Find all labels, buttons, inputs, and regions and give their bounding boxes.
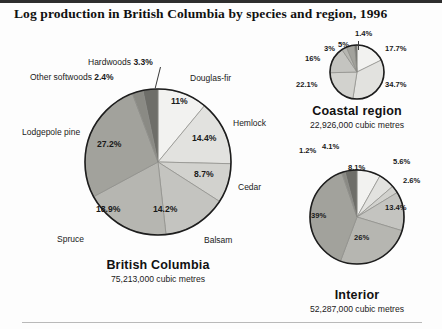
caption-coastal-region: Coastal region 22,926,000 cubic metres (277, 104, 437, 130)
label-balsam: Balsam (204, 236, 232, 245)
value-bc-douglas-fir: 11% (171, 97, 188, 106)
figure-canvas: Log production in British Columbia by sp… (0, 0, 442, 329)
top-rule (0, 0, 442, 3)
caption-bc-name: British Columbia (58, 258, 258, 272)
caption-british-columbia: British Columbia 75,213,000 cubic metres (58, 258, 258, 284)
value-bc-hemlock: 14.4% (192, 134, 216, 143)
caption-interior: Interior 52,287,000 cubic metres (277, 288, 437, 314)
pie-svg (83, 87, 233, 237)
value-coastal-lodgepole-pine: 5% (338, 41, 349, 49)
value-bc-balsam: 14.2% (153, 205, 177, 214)
caption-interior-volume: 52,287,000 cubic metres (277, 304, 437, 314)
value-coastal-spruce: 3% (324, 45, 335, 53)
leader-line-coastal-hardwoods (358, 41, 359, 50)
pie-chart-coastal-region (328, 43, 386, 101)
caption-bc-volume: 75,213,000 cubic metres (58, 274, 258, 284)
label-douglas-fir: Douglas-fir (190, 74, 231, 83)
label-hardwoods-name: Hardwoods (88, 57, 131, 67)
value-interior-hardwoods: 4.1% (322, 143, 339, 151)
value-interior-lodgepole-pine: 39% (311, 212, 326, 220)
label-cedar: Cedar (238, 183, 261, 192)
leader-line-hardwoods (155, 67, 161, 89)
label-other-softwoods-pct: 2.4% (94, 72, 113, 82)
value-coastal-douglas-fir: 17.7% (385, 45, 407, 53)
value-coastal-cedar: 22.1% (296, 81, 318, 89)
label-hardwoods-pct: 3.3% (133, 57, 152, 67)
label-other-softwoods-name: Other softwoods (30, 72, 92, 82)
label-lodgepole-pine: Lodgepole pine (22, 128, 80, 137)
value-bc-lodgepole-pine: 27.2% (97, 140, 121, 149)
figure-title: Log production in British Columbia by sp… (14, 6, 434, 22)
label-hemlock: Hemlock (233, 119, 266, 128)
pie-chart-british-columbia (83, 87, 233, 237)
value-interior-hemlock: 5.6% (393, 158, 410, 166)
value-interior-spruce: 26% (354, 234, 369, 242)
pie-svg (328, 43, 386, 101)
label-other-softwoods: Other softwoods 2.4% (30, 73, 114, 82)
label-hardwoods: Hardwoods 3.3% (88, 58, 153, 67)
value-interior-douglas-fir: 8.1% (348, 164, 365, 172)
value-coastal-hardwoods: 1.4% (355, 30, 372, 38)
caption-coastal-name: Coastal region (277, 104, 437, 118)
caption-interior-name: Interior (277, 288, 437, 302)
bottom-rule (22, 322, 422, 323)
value-interior-other-softwoods: 1.2% (299, 147, 316, 155)
value-coastal-hemlock: 34.7% (385, 81, 407, 89)
caption-coastal-volume: 22,926,000 cubic metres (277, 120, 437, 130)
label-spruce: Spruce (57, 235, 84, 244)
value-interior-balsam: 13.4% (385, 204, 407, 212)
value-bc-cedar: 8.7% (194, 170, 214, 179)
value-bc-spruce: 18.9% (96, 205, 120, 214)
value-interior-cedar: 2.6% (403, 177, 420, 185)
value-coastal-balsam: 16% (305, 55, 320, 63)
